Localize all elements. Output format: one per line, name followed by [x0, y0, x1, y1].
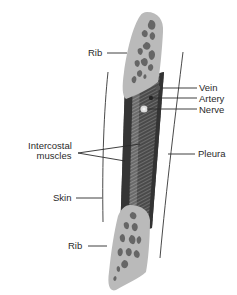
label-rib-bottom: Rib: [68, 241, 82, 251]
label-artery: Artery: [199, 94, 224, 104]
lower-rib: [108, 205, 150, 290]
label-intercostal-line2: muscles: [24, 151, 76, 161]
label-nerve: Nerve: [199, 105, 224, 115]
skin-line: [103, 72, 108, 222]
label-skin: Skin: [53, 193, 71, 203]
label-pleura: Pleura: [198, 149, 225, 159]
artery-icon: [149, 96, 153, 100]
label-rib-top: Rib: [88, 48, 102, 58]
label-intercostal-muscles: Intercostal muscles: [24, 141, 76, 161]
intercostal-anatomy-diagram: Rib Vein Artery Nerve Intercostal muscle…: [0, 0, 237, 295]
leader-intercostal-lower: [78, 153, 125, 161]
pleura-line: [160, 52, 183, 258]
label-vein: Vein: [199, 83, 218, 93]
vein-icon: [156, 86, 161, 91]
